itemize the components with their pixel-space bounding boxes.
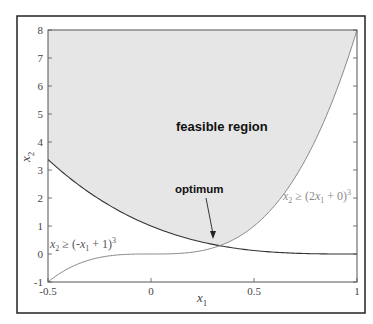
y-tick-label: 3: [38, 164, 44, 176]
x-tick-label: -0.5: [39, 285, 57, 297]
y-tick-label: 0: [38, 248, 44, 260]
y-tick-label: 4: [38, 136, 44, 148]
x-tick-label: 0: [148, 285, 154, 297]
y-tick-label: 5: [38, 108, 44, 120]
feasible-region-label: feasible region: [176, 119, 268, 134]
y-tick-label: 6: [38, 80, 44, 92]
x-tick-label: 0.5: [247, 285, 261, 297]
y-tick-label: 2: [38, 192, 44, 204]
figure: -1012345678 -0.500.51 feasible region op…: [0, 0, 373, 324]
constraint-2-label: x2 ≥ (2x1 + 0)3: [282, 188, 351, 205]
optimum-label: optimum: [175, 183, 224, 195]
y-tick-label: 7: [38, 52, 44, 64]
x-tick-label: 1: [354, 285, 360, 297]
y-tick-label: 1: [38, 220, 44, 232]
y-tick-label: 8: [38, 24, 44, 36]
constraint-1-label: x2 ≥ (-x1 + 1)3: [49, 236, 116, 253]
